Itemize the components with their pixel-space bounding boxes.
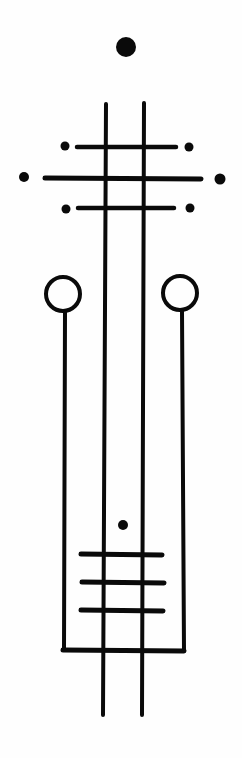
lower-crossbar-3 [81, 610, 163, 611]
lower-crossbar-2 [82, 582, 164, 583]
bottom-bar [63, 650, 184, 651]
upper-crossbar-1-dot-right [185, 143, 194, 152]
main-vertical-1 [103, 104, 106, 715]
bottom-bar-group [63, 650, 184, 651]
top-dot [116, 37, 136, 57]
left-ring [46, 277, 80, 311]
upper-crossbar-3-dot-right [186, 204, 195, 213]
main-vertical-2 [142, 103, 144, 715]
symbol-drawing [0, 0, 242, 758]
upper-crossbar-2-dot-left [19, 172, 29, 182]
right-ring [163, 276, 197, 310]
lower-crossbars [81, 554, 164, 611]
upper-crossbar-2 [45, 178, 201, 179]
right-stem [182, 311, 184, 650]
inner-dot [118, 520, 128, 530]
symbol-diagram [0, 0, 242, 758]
lower-crossbar-1 [81, 554, 162, 555]
main-verticals [103, 103, 144, 715]
upper-crossbar-3-dot-left [62, 205, 71, 214]
upper-crossbars [19, 142, 226, 214]
top-dot-group [116, 37, 136, 57]
upper-crossbar-2-dot-right [215, 174, 226, 185]
left-stem [64, 312, 65, 650]
upper-crossbar-1-dot-left [61, 142, 70, 151]
inner-dot-group [118, 520, 128, 530]
side-circles [46, 276, 197, 650]
